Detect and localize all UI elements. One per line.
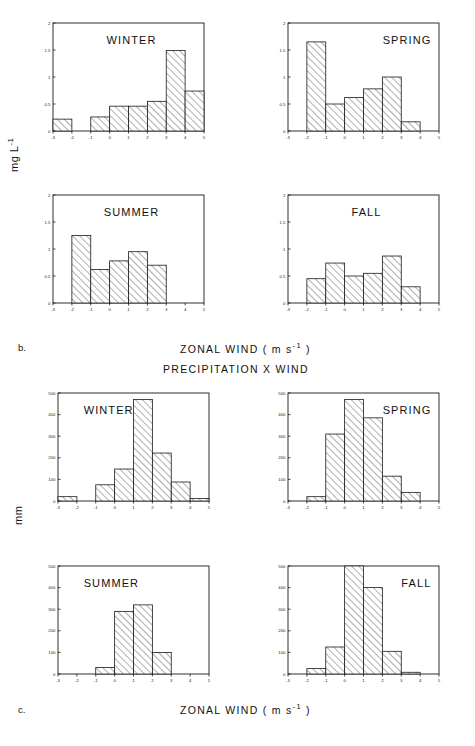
histogram-bar bbox=[190, 498, 209, 501]
panel-season-title: SPRING bbox=[383, 404, 432, 416]
y-axis-label-mg-per-liter: mg L-1 bbox=[6, 138, 20, 173]
histogram-bar bbox=[364, 588, 383, 674]
x-tick-label: -2 bbox=[305, 135, 309, 140]
x-tick-label: -2 bbox=[75, 505, 79, 510]
x-tick-label: 0 bbox=[343, 307, 346, 312]
group-title-precipitation-x-wind: PRECIPITATION X WIND bbox=[163, 363, 309, 375]
histogram-bar bbox=[382, 77, 401, 131]
histogram-bar bbox=[152, 652, 171, 674]
y-tick-label: 1 bbox=[48, 75, 51, 80]
histogram-svg-c-spring: -3-2-10123450100200300400500SPRING bbox=[268, 388, 443, 513]
x-tick-label: 4 bbox=[184, 135, 187, 140]
y-tick-label: 400 bbox=[48, 412, 56, 417]
x-tick-label: -2 bbox=[70, 135, 74, 140]
histogram-bar bbox=[129, 252, 148, 303]
histogram-bar bbox=[401, 672, 420, 674]
y-tick-label: 400 bbox=[278, 585, 286, 590]
histogram-bar bbox=[110, 261, 129, 303]
y-tick-label: 1 bbox=[283, 75, 286, 80]
y-tick-label: 100 bbox=[278, 650, 286, 655]
panel-season-title: FALL bbox=[401, 577, 431, 589]
y-tick-label: 300 bbox=[48, 607, 56, 612]
y-tick-label: 0 bbox=[283, 672, 286, 677]
panel-summer-precip: -3-2-10123450100200300400500SUMMER bbox=[38, 561, 213, 686]
x-tick-label: 1 bbox=[127, 135, 130, 140]
x-tick-label: 1 bbox=[132, 678, 135, 683]
y-tick-label: 0.5 bbox=[280, 274, 287, 279]
x-tick-label: 2 bbox=[381, 135, 384, 140]
histogram-bar bbox=[72, 236, 91, 304]
y-tick-label: 400 bbox=[278, 412, 286, 417]
histogram-bar bbox=[152, 453, 171, 501]
x-tick-label: 1 bbox=[362, 135, 365, 140]
y-tick-label: 2 bbox=[48, 21, 51, 26]
figure-root: mg L-1 -3-2-101234500.511.52WINTER -3-2-… bbox=[0, 0, 475, 746]
x-tick-label: -3 bbox=[286, 135, 290, 140]
histogram-svg-b-fall: -3-2-101234500.511.52FALL bbox=[268, 190, 443, 315]
x-tick-label: 2 bbox=[381, 307, 384, 312]
x-tick-label: -1 bbox=[324, 135, 328, 140]
y-tick-label: 200 bbox=[278, 455, 286, 460]
x-tick-label: 2 bbox=[381, 505, 384, 510]
histogram-bar bbox=[307, 42, 326, 131]
chart-group-b: mg L-1 -3-2-101234500.511.52WINTER -3-2-… bbox=[0, 0, 475, 365]
x-tick-label: 3 bbox=[165, 307, 168, 312]
histogram-bar bbox=[364, 89, 383, 131]
panel-winter-nutrient: -3-2-101234500.511.52WINTER bbox=[33, 18, 208, 143]
histogram-bar bbox=[91, 270, 110, 303]
histogram-bar bbox=[307, 279, 326, 303]
histogram-bar bbox=[110, 106, 129, 131]
y-tick-label: 200 bbox=[48, 628, 56, 633]
x-axis-title-b: ZONAL WIND ( m s-1 ) bbox=[180, 341, 311, 355]
x-tick-label: 1 bbox=[362, 307, 365, 312]
x-tick-label: 2 bbox=[381, 678, 384, 683]
histogram-bar bbox=[401, 492, 420, 501]
x-tick-label: 0 bbox=[113, 505, 116, 510]
y-tick-label: 500 bbox=[278, 564, 286, 569]
histogram-svg-c-summer: -3-2-10123450100200300400500SUMMER bbox=[38, 561, 213, 686]
y-tick-label: 0.5 bbox=[45, 102, 52, 107]
histogram-bar bbox=[147, 101, 166, 131]
x-tick-label: -1 bbox=[324, 505, 328, 510]
x-tick-label: 5 bbox=[203, 307, 206, 312]
panel-season-title: SUMMER bbox=[84, 577, 140, 589]
histogram-bar bbox=[345, 276, 364, 303]
x-tick-label: 5 bbox=[208, 505, 211, 510]
x-tick-label: 3 bbox=[165, 135, 168, 140]
y-tick-label: 300 bbox=[48, 434, 56, 439]
histogram-bar bbox=[364, 418, 383, 501]
subfigure-label-b: b. bbox=[18, 342, 26, 353]
histogram-bar bbox=[326, 434, 345, 501]
y-tick-label: 1 bbox=[48, 247, 51, 252]
panel-summer-nutrient: -3-2-101234500.511.52SUMMER bbox=[33, 190, 208, 315]
x-tick-label: -2 bbox=[70, 307, 74, 312]
x-tick-label: -3 bbox=[56, 505, 60, 510]
histogram-svg-c-winter: -3-2-10123450100200300400500WINTER bbox=[38, 388, 213, 513]
panel-season-title: WINTER bbox=[84, 404, 134, 416]
x-tick-label: 5 bbox=[438, 505, 441, 510]
x-tick-label: 4 bbox=[419, 307, 422, 312]
y-tick-label: 0.5 bbox=[45, 274, 52, 279]
histogram-bar bbox=[307, 497, 326, 501]
histogram-bar bbox=[326, 647, 345, 674]
chart-group-c: PRECIPITATION X WIND mm -3-2-10123450100… bbox=[0, 365, 475, 746]
histogram-bar bbox=[166, 51, 185, 131]
histogram-bar bbox=[364, 273, 383, 303]
y-tick-label: 0 bbox=[53, 672, 56, 677]
x-tick-label: 5 bbox=[438, 307, 441, 312]
x-tick-label: 3 bbox=[170, 678, 173, 683]
histogram-bar bbox=[185, 91, 204, 131]
x-tick-label: -2 bbox=[305, 307, 309, 312]
histogram-bar bbox=[129, 106, 148, 131]
y-tick-label: 1.5 bbox=[280, 48, 287, 53]
x-tick-label: 4 bbox=[189, 678, 192, 683]
y-tick-label: 500 bbox=[48, 564, 56, 569]
x-tick-label: 2 bbox=[146, 307, 149, 312]
x-tick-label: 0 bbox=[113, 678, 116, 683]
x-tick-label: 5 bbox=[438, 678, 441, 683]
y-tick-label: 1 bbox=[283, 247, 286, 252]
x-tick-label: 1 bbox=[127, 307, 130, 312]
x-tick-label: -3 bbox=[51, 135, 55, 140]
panel-spring-precip: -3-2-10123450100200300400500SPRING bbox=[268, 388, 443, 513]
histogram-bar bbox=[345, 98, 364, 131]
